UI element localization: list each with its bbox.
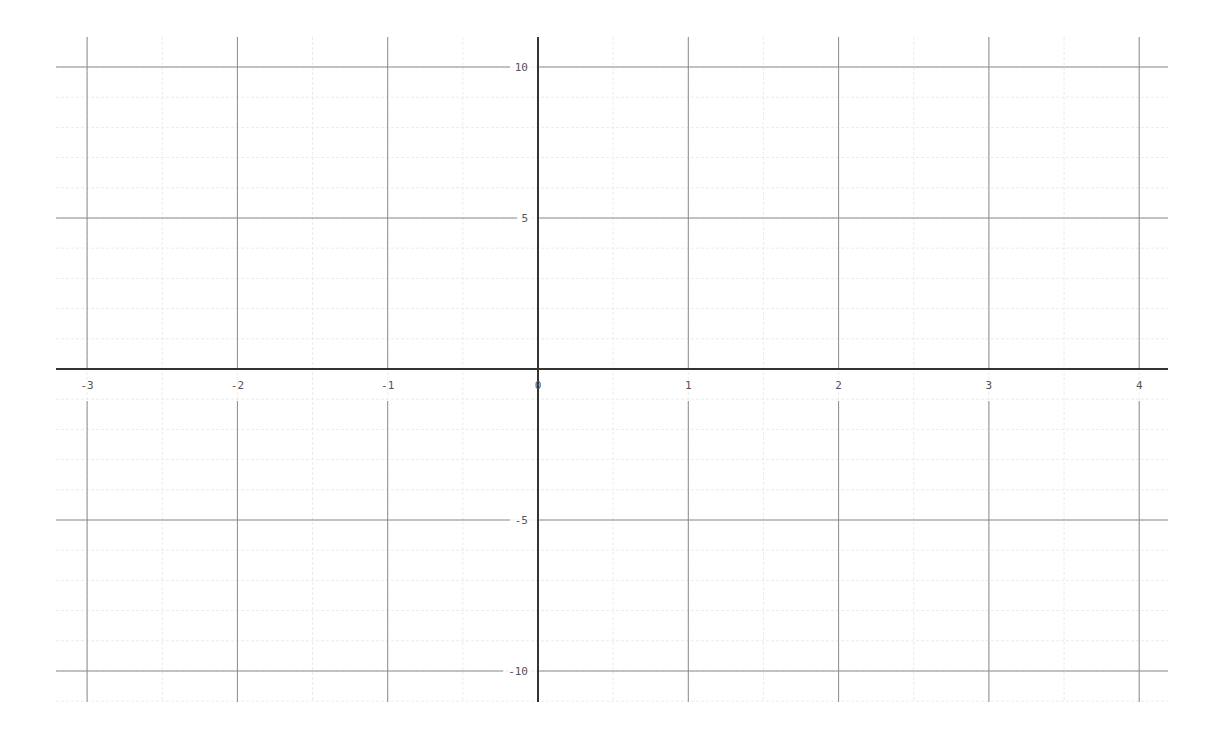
y-tick-label: -5 <box>515 514 528 527</box>
x-tick-label: 3 <box>986 379 993 392</box>
coordinate-plane: -3-2-101234 105-5-10 <box>0 0 1214 741</box>
x-tick-label: 4 <box>1136 379 1143 392</box>
axes <box>56 37 1168 702</box>
y-tick-label: 5 <box>521 212 528 225</box>
y-tick-label: -10 <box>508 665 528 678</box>
x-tick-label: -1 <box>381 379 394 392</box>
x-tick-label: 2 <box>835 379 842 392</box>
x-tick-label: 1 <box>685 379 692 392</box>
x-tick-label: 0 <box>535 379 542 392</box>
x-axis-tick-labels: -3-2-101234 <box>80 379 1142 392</box>
x-tick-label: -2 <box>231 379 244 392</box>
x-tick-label: -3 <box>80 379 93 392</box>
y-tick-label: 10 <box>515 61 528 74</box>
